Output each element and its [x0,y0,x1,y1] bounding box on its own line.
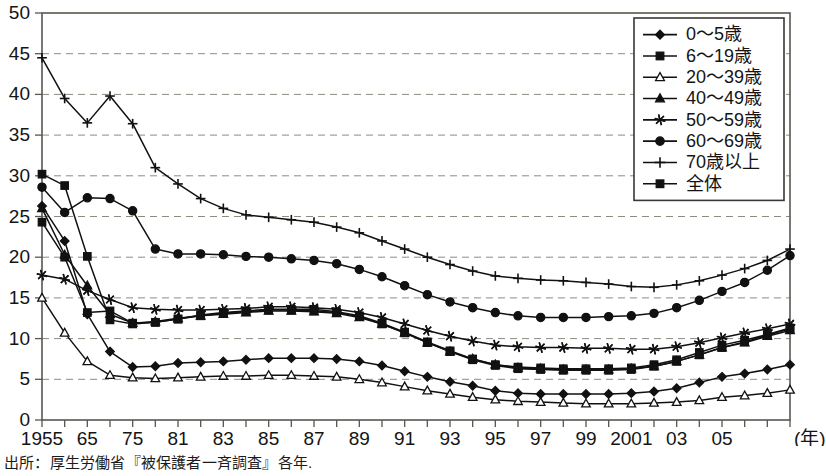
marker-square [152,319,159,326]
marker-diamond [310,354,319,363]
marker-square [560,367,567,374]
marker-circle [605,313,613,321]
marker-circle [129,207,137,215]
marker-circle [287,255,295,263]
marker-star [105,294,115,304]
marker-plus [355,228,365,238]
marker-plus [309,217,319,227]
marker-plus [377,236,387,246]
legend-label: 0〜5歳 [686,24,742,44]
marker-plus [627,282,637,292]
legend-label: 全体 [686,174,722,194]
marker-diamond [174,359,183,368]
legend-label: 50〜59歳 [686,110,762,130]
marker-circle [355,265,363,273]
marker-circle [106,195,114,203]
marker-square [741,338,748,345]
marker-circle [151,245,159,253]
marker-diamond [763,365,772,374]
series-2 [38,293,795,407]
marker-circle [219,251,227,259]
marker-circle [197,250,205,258]
marker-square [310,307,317,314]
y-tick-label: 5 [19,368,30,389]
marker-diamond [718,373,727,382]
marker-plus [717,270,727,280]
marker-circle [491,308,499,316]
marker-square [106,316,113,323]
marker-circle [763,266,771,274]
y-tick-label: 20 [9,246,30,267]
marker-triangle [786,385,795,393]
marker-square [333,309,340,316]
series-line [42,174,790,370]
y-tick-label: 10 [9,328,30,349]
marker-circle [695,296,703,304]
series-4 [37,270,795,354]
legend-label: 60〜69歳 [686,131,762,151]
series-5 [38,183,794,321]
marker-square [242,308,249,315]
marker-circle [401,282,409,290]
marker-square [288,306,295,313]
marker-diamond [672,384,681,393]
x-tick-label: 65 [77,428,98,446]
y-tick-label: 45 [9,43,30,64]
marker-diamond [627,389,636,398]
marker-plus [37,53,47,63]
marker-circle [378,273,386,281]
y-tick-label: 30 [9,165,30,186]
marker-plus [264,212,274,222]
marker-plus [173,179,183,189]
x-tick-label: 97 [530,428,551,446]
marker-circle [61,208,69,216]
marker-circle [310,256,318,264]
legend-label: 20〜39歳 [686,67,762,87]
marker-plus [581,278,591,288]
x-tick-label: 75 [122,428,143,446]
marker-square [129,320,136,327]
series-0 [38,202,795,399]
legend-label: 70歳以上 [686,152,760,172]
marker-square [718,344,725,351]
marker-diamond [242,355,251,364]
marker-square [605,367,612,374]
marker-plus [513,274,523,284]
marker-circle [174,250,182,258]
marker-star [445,331,455,341]
x-axis: 195565758183858789919395979920010305(年) [21,420,826,446]
marker-circle [469,304,477,312]
marker-circle [537,313,545,321]
marker-square [378,320,385,327]
y-tick-label: 50 [9,2,30,23]
marker-plus [400,244,410,254]
marker-square [656,52,664,60]
marker-square [61,182,68,189]
marker-square [197,312,204,319]
marker-diamond [287,354,296,363]
marker-square [84,253,91,260]
marker-plus [241,210,251,220]
marker-diamond [423,373,432,382]
marker-diamond [378,361,387,370]
chart-container: 0510152025303540455019556575818385878991… [0,0,826,476]
marker-plus [151,163,161,173]
y-tick-label: 40 [9,83,30,104]
marker-plus [332,222,342,232]
x-tick-label: 93 [439,428,460,446]
marker-diamond [559,390,568,399]
x-tick-label: 2001 [610,428,652,446]
marker-square [84,309,91,316]
marker-triangle [106,371,115,379]
marker-diamond [604,390,613,399]
marker-square [492,362,499,369]
legend-label: 40〜49歳 [686,88,762,108]
marker-circle [83,194,91,202]
marker-square [764,332,771,339]
marker-plus [491,271,501,281]
marker-diamond [332,355,341,364]
source-note: 出所：厚生労働省『被保護者一斉調査』各年. [4,451,312,472]
marker-square [469,356,476,363]
marker-diamond [219,357,228,366]
marker-circle [333,260,341,268]
